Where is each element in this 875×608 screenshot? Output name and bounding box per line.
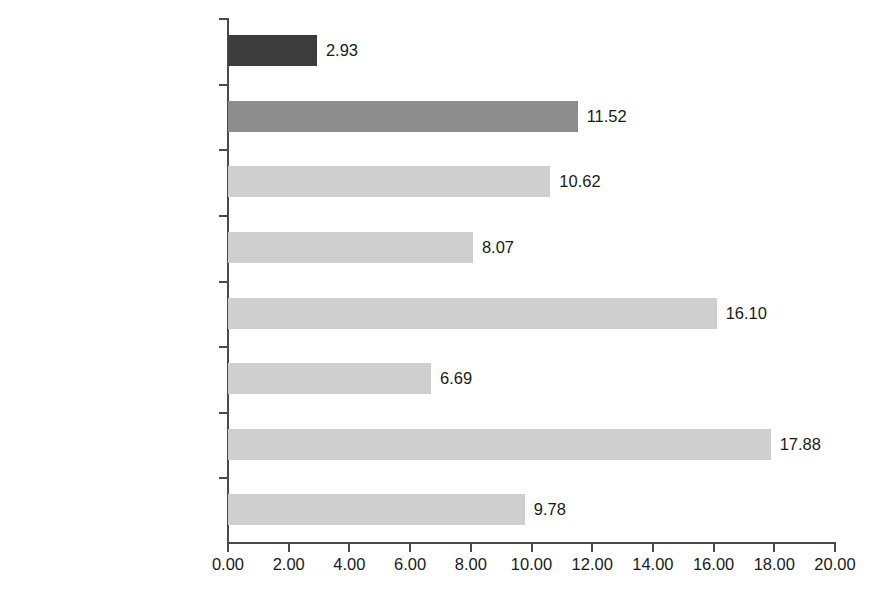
bar [228, 363, 431, 394]
y-axis-tick [219, 281, 228, 283]
bar-value-label: 16.10 [717, 298, 767, 329]
x-axis-tick-label: 20.00 [814, 556, 855, 573]
y-axis-tick [219, 346, 228, 348]
x-axis-tick-label: 12.00 [572, 556, 613, 573]
bar-row: Oman6.69 [228, 346, 835, 412]
bar-row: Qatar16.10 [228, 281, 835, 347]
bar [228, 101, 578, 132]
x-axis-tick [348, 544, 350, 552]
bar-row: Saudi Arabia8.07 [228, 215, 835, 281]
x-axis-tick [834, 544, 836, 552]
y-axis-tick [219, 149, 228, 151]
y-axis-tick [219, 18, 228, 20]
bar-row: Bahrain9.78 [228, 477, 835, 543]
x-axis-tick-label: 10.00 [511, 556, 552, 573]
bar-value-label: 10.62 [550, 166, 600, 197]
x-axis-tick [409, 544, 411, 552]
x-axis-tick-label: 8.00 [455, 556, 487, 573]
x-axis-tick [773, 544, 775, 552]
bar-value-label: 9.78 [525, 494, 566, 525]
plot-area: World2.93GCC11.52United Arab Emirates10.… [228, 18, 835, 543]
y-axis-tick [219, 215, 228, 217]
y-axis-tick [219, 412, 228, 414]
x-axis-tick-label: 14.00 [632, 556, 673, 573]
x-axis-tick [531, 544, 533, 552]
bar-row: United Arab Emirates10.62 [228, 149, 835, 215]
bar-row: Kuwait17.88 [228, 412, 835, 478]
bar-value-label: 17.88 [771, 429, 821, 460]
x-axis-tick [652, 544, 654, 552]
x-axis-tick-label: 18.00 [754, 556, 795, 573]
bar [228, 494, 525, 525]
x-axis-tick [713, 544, 715, 552]
x-axis-tick-label: 2.00 [273, 556, 305, 573]
bar-value-label: 11.52 [578, 101, 627, 132]
bar [228, 429, 771, 460]
x-axis-tick [288, 544, 290, 552]
x-axis-tick [227, 544, 229, 552]
y-axis-tick [219, 477, 228, 479]
bar-chart: World2.93GCC11.52United Arab Emirates10.… [0, 0, 875, 608]
bar-value-label: 8.07 [473, 232, 514, 263]
x-axis-tick-label: 16.00 [693, 556, 734, 573]
bar-value-label: 2.93 [317, 35, 358, 66]
bar-row: World2.93 [228, 18, 835, 84]
x-axis-tick [591, 544, 593, 552]
bar-row: GCC11.52 [228, 84, 835, 150]
x-axis-tick-label: 0.00 [212, 556, 244, 573]
bar [228, 232, 473, 263]
bar [228, 166, 550, 197]
bar-value-label: 6.69 [431, 363, 472, 394]
x-axis-tick [470, 544, 472, 552]
x-axis-tick-label: 4.00 [333, 556, 365, 573]
bar [228, 35, 317, 66]
bar [228, 298, 717, 329]
y-axis-tick [219, 84, 228, 86]
x-axis-tick-label: 6.00 [394, 556, 426, 573]
